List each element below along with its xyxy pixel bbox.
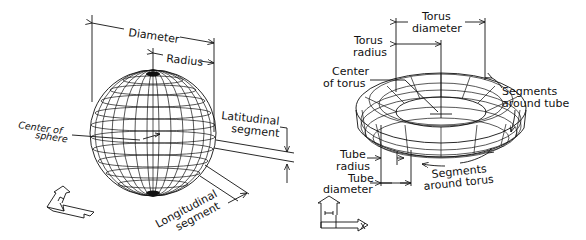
ucs-front-icon bbox=[318, 196, 368, 231]
label-torus-radius-2: radius bbox=[353, 46, 387, 59]
sphere-longitudes bbox=[95, 70, 211, 196]
label-center-torus-2: of torus bbox=[323, 77, 366, 90]
label-tube-diameter-2: diameter bbox=[323, 183, 373, 196]
diagram-canvas: Diameter Radius Latitudinal segment Cent… bbox=[0, 0, 586, 240]
label-diameter: Diameter bbox=[128, 26, 181, 46]
sphere-figure bbox=[72, 15, 294, 203]
label-torus-diameter-2: diameter bbox=[412, 22, 462, 35]
label-segments-tube-2: around tube bbox=[502, 97, 569, 110]
ucs-isometric-icon bbox=[47, 186, 94, 218]
label-radius: Radius bbox=[166, 52, 204, 69]
label-sphere: sphere bbox=[35, 129, 69, 144]
